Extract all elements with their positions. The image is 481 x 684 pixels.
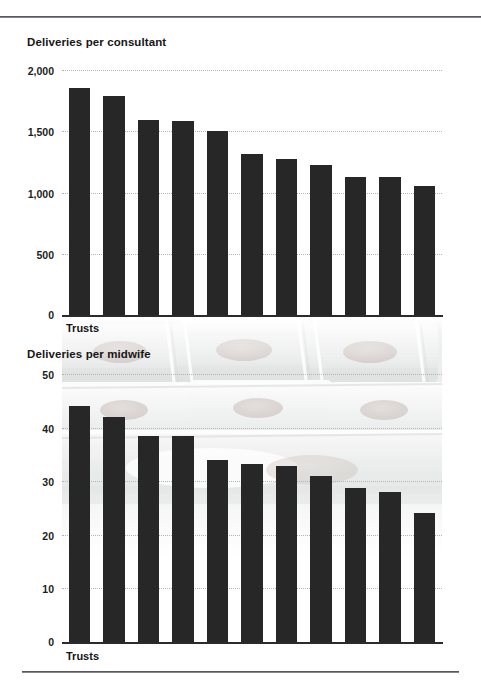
top-divider-rule: [0, 16, 481, 18]
y-axis-tick-label: 0: [48, 637, 54, 648]
report-page: Deliveries per consultant 05001,0001,500…: [0, 0, 481, 684]
y-axis-tick-label: 1,000: [28, 188, 54, 199]
bar: [276, 466, 297, 642]
bar: [138, 120, 159, 315]
x-axis-label-midwife: Trusts: [66, 650, 99, 662]
y-axis-tick-label: 0: [48, 310, 54, 321]
bar: [379, 492, 400, 642]
y-axis-tick-label: 30: [42, 477, 54, 488]
chart-panel-deliveries-per-midwife: Deliveries per midwife 01020304050 Trust…: [0, 338, 481, 668]
y-axis-tick-label: 2,000: [28, 66, 54, 77]
chart-title-deliveries-per-midwife: Deliveries per midwife: [27, 348, 151, 360]
plot-area-deliveries-per-consultant: 05001,0001,5002,000: [62, 70, 442, 315]
bar: [172, 436, 193, 642]
axis-baseline: 0: [62, 642, 443, 644]
bar: [138, 436, 159, 642]
bar: [241, 464, 262, 642]
chart-title-deliveries-per-consultant: Deliveries per consultant: [27, 36, 166, 48]
bar: [310, 165, 331, 315]
bar: [241, 154, 262, 315]
bar: [207, 460, 228, 642]
bar: [414, 513, 435, 642]
y-axis-tick-label: 10: [42, 584, 54, 595]
y-axis-tick-label: 20: [42, 531, 54, 542]
bar: [103, 96, 124, 315]
axis-baseline: 0: [62, 315, 443, 317]
plot-area-deliveries-per-midwife: 01020304050: [62, 374, 442, 642]
chart-panel-deliveries-per-consultant: Deliveries per consultant 05001,0001,500…: [0, 26, 481, 338]
bar: [310, 476, 331, 642]
bar: [103, 417, 124, 642]
x-axis-label-consultant: Trusts: [66, 322, 99, 334]
y-axis-tick-label: 50: [42, 370, 54, 381]
bar: [172, 121, 193, 315]
bar: [345, 177, 366, 315]
bar: [69, 406, 90, 642]
y-axis-tick-label: 500: [36, 250, 54, 261]
bar-series-consultant: [62, 70, 442, 315]
bar: [414, 186, 435, 315]
y-axis-tick-label: 1,500: [28, 127, 54, 138]
bottom-divider-rule: [22, 671, 459, 673]
bar: [276, 159, 297, 315]
bar: [345, 488, 366, 642]
bar: [379, 177, 400, 315]
y-axis-tick-label: 40: [42, 423, 54, 434]
bar-series-midwife: [62, 374, 442, 642]
bar: [69, 88, 90, 315]
bar: [207, 131, 228, 315]
